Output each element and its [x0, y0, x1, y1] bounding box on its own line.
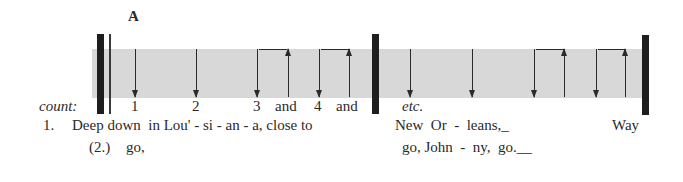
- verse-1-number: 1.: [43, 117, 54, 134]
- up-arrow-icon: [288, 49, 289, 97]
- down-arrow-icon: [319, 49, 320, 97]
- count-1: 1: [131, 98, 139, 115]
- tie-line: [536, 49, 564, 50]
- down-arrow-icon: [135, 49, 136, 97]
- middle-barline: [372, 34, 379, 114]
- up-arrow-icon: [564, 49, 565, 97]
- start-barline-thick: [97, 34, 104, 114]
- count-and-3: and: [275, 98, 297, 115]
- up-arrow-icon: [625, 49, 626, 97]
- verse-1-lyric-c: Way: [612, 117, 639, 134]
- section-label: A: [128, 8, 139, 25]
- down-arrow-icon: [534, 49, 535, 97]
- rhythm-band: [92, 49, 645, 98]
- verse-2-lyric-b: go, John - ny, go.__: [402, 139, 532, 156]
- down-arrow-icon: [257, 49, 258, 97]
- count-4: 4: [314, 98, 322, 115]
- verse-1-lyric-a: Deep down in Lou' - si - an - a, close t…: [72, 117, 313, 134]
- start-barline-thin: [109, 34, 111, 114]
- verse-2-lyric-a: go,: [126, 139, 145, 156]
- down-arrow-icon: [596, 49, 597, 97]
- verse-2-number: (2.): [89, 139, 110, 156]
- count-etc: etc.: [402, 98, 423, 115]
- count-label: count:: [39, 98, 77, 115]
- verse-1-lyric-b: New Or - leans,_: [395, 117, 509, 134]
- count-2: 2: [192, 98, 200, 115]
- tie-line: [321, 49, 349, 50]
- count-3: 3: [253, 98, 261, 115]
- down-arrow-icon: [472, 49, 473, 97]
- count-and-4: and: [336, 98, 358, 115]
- down-arrow-icon: [196, 49, 197, 97]
- end-barline: [642, 35, 649, 115]
- down-arrow-icon: [410, 49, 411, 97]
- up-arrow-icon: [349, 49, 350, 97]
- tie-line: [259, 49, 287, 50]
